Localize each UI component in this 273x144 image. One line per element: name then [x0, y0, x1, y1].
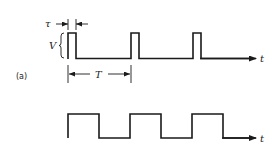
curly-brace-icon — [59, 33, 64, 58]
period-dimension: T — [68, 65, 131, 83]
period-label: T — [95, 69, 103, 80]
top-pulse-train: t — [68, 33, 265, 64]
time-axis-label: t — [260, 133, 265, 144]
pulse-diagram: t τ V T (a) t — [0, 0, 273, 144]
tau-dimension: τ — [45, 18, 88, 30]
panel-label: (a) — [16, 72, 27, 81]
bottom-square-wave: t — [68, 114, 265, 144]
amplitude-label: V — [49, 40, 58, 51]
square-waveform — [68, 114, 250, 138]
pulse-width-label: τ — [45, 18, 51, 29]
pulse-waveform — [68, 33, 250, 59]
time-axis-label: t — [260, 53, 265, 64]
amplitude-brace: V — [49, 33, 64, 58]
